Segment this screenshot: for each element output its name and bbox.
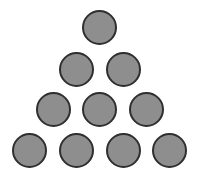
circle-row2-1: [59, 52, 94, 87]
circle-row4-6: [12, 133, 47, 168]
circle-row3-5: [129, 92, 164, 127]
triangle-circle-diagram: [0, 0, 197, 182]
circle-row4-7: [59, 133, 94, 168]
circle-row3-4: [82, 92, 117, 127]
circle-row3-3: [36, 92, 71, 127]
circle-row4-9: [152, 133, 187, 168]
circle-row1-0: [82, 10, 117, 45]
circle-row2-2: [106, 52, 141, 87]
circle-row4-8: [106, 133, 141, 168]
